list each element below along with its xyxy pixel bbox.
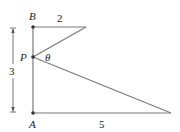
arrow-up-icon [11, 28, 14, 33]
label-bottom-length: 5 [99, 118, 105, 130]
point-b [31, 25, 35, 29]
label-a: A [28, 118, 36, 130]
label-height: 3 [9, 65, 15, 77]
label-p: P [19, 51, 27, 63]
point-p [31, 55, 35, 59]
label-top-length: 2 [57, 12, 63, 24]
segment-p-top [33, 27, 86, 57]
label-b: B [29, 10, 36, 22]
segment-p-bottom [33, 57, 171, 113]
diagram-canvas: B P A 2 5 3 θ [0, 0, 180, 132]
label-angle: θ [45, 51, 51, 63]
point-a [31, 111, 35, 115]
arrow-down-icon [11, 107, 14, 112]
